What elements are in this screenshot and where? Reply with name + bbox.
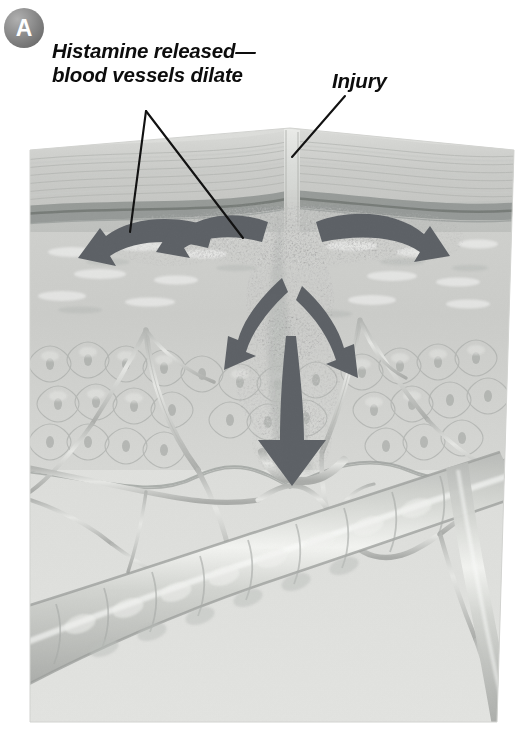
skin-cross-section-illustration [0,0,530,735]
tissue-block [8,120,526,730]
injury-caption-text: Injury [332,69,387,92]
figure-panel: A Histamine released—blood vessels dilat… [0,0,530,735]
histamine-caption-line1: Histamine released— [52,39,256,62]
panel-badge-a: A [4,8,44,48]
panel-badge-label: A [16,17,33,40]
histamine-caption-line2: blood vessels dilate [52,63,243,86]
histamine-caption: Histamine released—blood vessels dilate [52,39,256,87]
injury-caption: Injury [332,69,387,93]
